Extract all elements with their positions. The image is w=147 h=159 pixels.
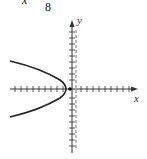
vertex-point [68, 87, 72, 91]
x-axis-label: x [133, 92, 139, 104]
x-axis-arrow-icon [131, 87, 138, 92]
y-axis-arrow-icon [70, 20, 75, 27]
parabola-graph: x y [0, 0, 147, 159]
y-axis-label: y [76, 14, 82, 26]
